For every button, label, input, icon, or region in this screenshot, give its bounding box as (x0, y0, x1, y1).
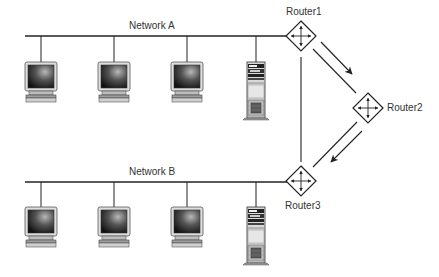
link-router2-router3 (313, 122, 357, 167)
server-icon (243, 62, 269, 120)
router1-icon (286, 21, 316, 51)
router2-label: Router2 (387, 102, 423, 113)
workstation-icon (25, 62, 57, 102)
workstation-icon (98, 207, 130, 247)
router3-icon (286, 166, 316, 196)
workstation-icon (171, 207, 203, 247)
flow-arrow-router1-to-router2 (321, 42, 352, 74)
network-diagram (0, 0, 439, 277)
network-a (25, 36, 287, 120)
workstation-icon (25, 207, 57, 247)
router2-icon (353, 93, 383, 123)
flow-arrow-router2-to-router3 (331, 131, 362, 162)
server-icon (243, 207, 269, 265)
router1-label: Router1 (286, 6, 322, 17)
network-b-label: Network B (129, 166, 175, 177)
network-b (25, 182, 287, 265)
workstation-icon (171, 62, 203, 102)
router3-label: Router3 (285, 200, 321, 211)
network-a-label: Network A (129, 20, 175, 31)
workstation-icon (98, 62, 130, 102)
